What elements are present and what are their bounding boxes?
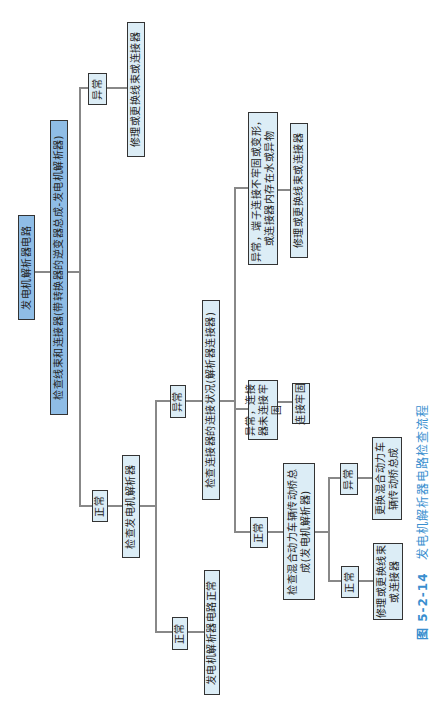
connector-line xyxy=(79,89,81,507)
connector-line xyxy=(358,478,372,480)
connector-line xyxy=(79,506,92,508)
connector-normal-node: 正常 xyxy=(250,517,268,548)
resolver-normal-node: 正常 xyxy=(172,617,188,650)
connector-line xyxy=(359,581,373,583)
connector-loose-node: 异常，连接器未连接牢固 xyxy=(248,380,278,440)
figure-caption: 图 5-2-14发电机解析器电路检查流程 xyxy=(413,404,430,640)
connector-line xyxy=(278,190,290,192)
harness-repair-node: 修理或更换线束或连接器 xyxy=(127,22,145,157)
harness-normal-node: 正常 xyxy=(92,490,108,522)
transaxle-normal-node: 正常 xyxy=(341,566,359,598)
connector-line xyxy=(315,532,328,534)
connector-line xyxy=(155,401,157,633)
connector-line xyxy=(234,188,236,533)
connector-line xyxy=(155,632,172,634)
connector-line xyxy=(268,532,283,534)
figure-title: 发电机解析器电路检查流程 xyxy=(416,404,430,560)
connector-line xyxy=(108,506,122,508)
connector-line xyxy=(220,401,234,403)
connector-line xyxy=(328,581,341,583)
figure-number: 图 5-2-14 xyxy=(416,572,430,640)
connector-line xyxy=(328,478,340,480)
terminal-repair-node: 修理或更换线束或连接器 xyxy=(290,123,308,258)
check-harness-node: 检查线束和连接器(带转换器的逆变器总成-发电机解析器) xyxy=(50,120,68,415)
transaxle-repair-node: 修理或更换线束或连接器 xyxy=(373,543,403,620)
connector-line xyxy=(155,401,170,403)
check-resolver-node: 检查发电机解析器 xyxy=(122,455,140,558)
connector-line xyxy=(188,632,204,634)
resolver-abnormal-node: 异常 xyxy=(170,385,186,418)
connector-line xyxy=(140,506,155,508)
connector-line xyxy=(328,478,330,582)
connector-line xyxy=(234,188,248,190)
connector-line xyxy=(186,401,202,403)
terminal-issue-node: 异常，端子连接不牢固或变形，或连接器内存在水或异物 xyxy=(248,112,278,265)
connect-firmly-node: 连接牢固 xyxy=(292,383,310,424)
flowchart: 发电机解析器电路 检查线束和连接器(带转换器的逆变器总成-发电机解析器) 异常 … xyxy=(0,0,434,703)
connector-line xyxy=(35,272,50,274)
connector-line xyxy=(79,88,88,90)
connector-line xyxy=(68,272,79,274)
connector-line xyxy=(234,532,250,534)
resolver-ok-node: 发电机解析器电路正常 xyxy=(204,570,220,695)
harness-abnormal-node: 异常 xyxy=(88,73,107,105)
connector-line xyxy=(107,88,127,90)
root-node: 发电机解析器电路 xyxy=(18,215,35,320)
replace-transaxle-node: 更换混合动力车辆传动桥总成 xyxy=(372,437,402,520)
check-connector-node: 检查连接器的连接状况(解析器连接器) xyxy=(202,300,220,500)
transaxle-abnormal-node: 异常 xyxy=(340,463,358,495)
check-transaxle-node: 检查混合动力车辆传动桥总成(发电机解析器) xyxy=(283,463,315,600)
